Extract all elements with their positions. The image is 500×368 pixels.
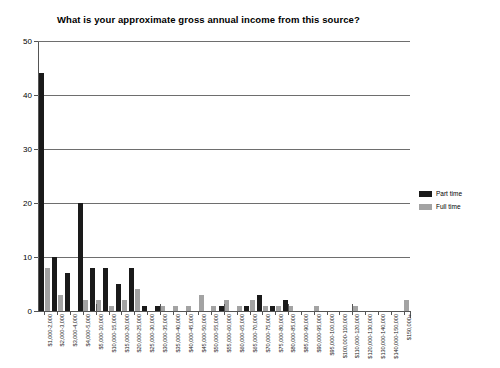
bar-part-time <box>52 257 57 311</box>
bar-group <box>219 41 230 311</box>
legend-swatch-full-time <box>419 204 432 210</box>
bar-group <box>78 41 89 311</box>
x-tick-label: $35,000-40,000 <box>175 314 181 353</box>
x-tick-label: $55,000-60,000 <box>226 314 232 353</box>
y-tick-mark <box>34 311 38 312</box>
bar-full-time <box>314 306 319 311</box>
chart-title: What is your approximate gross annual in… <box>57 14 360 25</box>
x-tick-label: $30,000-35,000 <box>162 314 168 353</box>
y-tick-mark <box>34 203 38 204</box>
legend-swatch-part-time <box>419 191 432 197</box>
bar-group <box>244 41 255 311</box>
chart-container: What is your approximate gross annual in… <box>0 0 500 368</box>
bar-group <box>52 41 63 311</box>
x-tick-mark <box>96 311 97 315</box>
bar-full-time <box>404 300 409 311</box>
bar-full-time <box>353 306 358 311</box>
bar-group <box>283 41 294 311</box>
bar-group <box>257 41 268 311</box>
x-tick-label: $90,000-95,000 <box>316 314 322 353</box>
bar-full-time <box>237 306 242 311</box>
x-tick-mark <box>109 311 110 315</box>
x-tick-mark <box>262 311 263 315</box>
y-tick-label: 10 <box>23 253 32 262</box>
x-tick-label: $3,000-4,000 <box>72 314 78 346</box>
bar-group <box>155 41 166 311</box>
bar-group <box>167 41 178 311</box>
x-tick-label: $4,000-5,000 <box>85 314 91 346</box>
legend-label-full-time: Full time <box>436 203 461 210</box>
bar-group <box>193 41 204 311</box>
x-tick-label: $140,000-150,000 <box>393 314 399 359</box>
x-tick-label: $25,000-30,000 <box>149 314 155 353</box>
bar-group <box>321 41 332 311</box>
x-tick-mark <box>173 311 174 315</box>
legend-item-part-time: Part time <box>419 190 462 197</box>
x-tick-mark <box>186 311 187 315</box>
x-tick-label: $75,000-80,000 <box>278 314 284 353</box>
bar-group <box>398 41 409 311</box>
chart-legend: Part time Full time <box>419 190 462 216</box>
x-tick-label: $1,000-2,000 <box>47 314 53 346</box>
x-tick-label: $80,000-85,000 <box>290 314 296 353</box>
x-tick-label: $15,000-20,000 <box>124 314 130 353</box>
bar-full-time <box>199 295 204 311</box>
bar-full-time <box>173 306 178 311</box>
bar-group <box>116 41 127 311</box>
bar-part-time <box>78 203 83 311</box>
bar-part-time <box>270 306 275 311</box>
bar-part-time <box>116 284 121 311</box>
x-tick-label: $130,000-140,000 <box>380 314 386 359</box>
y-tick-mark <box>34 95 38 96</box>
bar-part-time <box>129 268 134 311</box>
x-tick-mark <box>224 311 225 315</box>
x-tick-label: $45,000-50,000 <box>201 314 207 353</box>
x-tick-mark <box>147 311 148 315</box>
bar-part-time <box>90 268 95 311</box>
bar-group <box>373 41 384 311</box>
y-tick-mark <box>34 257 38 258</box>
bar-group <box>129 41 140 311</box>
x-major-tick-mark <box>288 304 289 311</box>
bar-full-time <box>211 306 216 311</box>
bar-full-time <box>109 306 114 311</box>
bar-group <box>39 41 50 311</box>
bar-full-time <box>96 300 101 311</box>
bar-group <box>296 41 307 311</box>
bar-full-time <box>263 306 268 311</box>
x-tick-mark <box>391 311 392 315</box>
bar-group <box>180 41 191 311</box>
bar-full-time <box>276 306 281 311</box>
x-tick-mark <box>378 311 379 315</box>
x-tick-mark <box>288 311 289 315</box>
bar-full-time <box>45 268 50 311</box>
bar-group <box>90 41 101 311</box>
bar-group <box>232 41 243 311</box>
bar-group <box>360 41 371 311</box>
x-tick-mark <box>301 311 302 315</box>
bar-part-time <box>283 300 288 311</box>
x-tick-label: $20,000-25,000 <box>136 314 142 353</box>
y-tick-label: 0 <box>28 307 32 316</box>
bar-group <box>142 41 153 311</box>
bar-full-time <box>224 300 229 311</box>
x-tick-label: $5,000-10,000 <box>98 314 104 349</box>
y-tick-mark <box>34 149 38 150</box>
bar-full-time <box>250 300 255 311</box>
x-tick-label: $50,000-55,000 <box>213 314 219 353</box>
x-major-tick-mark <box>160 304 161 311</box>
x-tick-label: $10,000-15,000 <box>111 314 117 353</box>
bar-full-time <box>122 300 127 311</box>
x-tick-mark <box>365 311 366 315</box>
x-tick-mark <box>83 311 84 315</box>
bar-full-time <box>288 306 293 311</box>
bar-group <box>103 41 114 311</box>
x-tick-mark <box>314 311 315 315</box>
x-tick-mark <box>250 311 251 315</box>
bar-full-time <box>58 295 63 311</box>
x-tick-label: $40,000-45,000 <box>188 314 194 353</box>
x-tick-mark <box>275 311 276 315</box>
bar-group <box>308 41 319 311</box>
x-tick-mark <box>44 311 45 315</box>
x-tick-mark <box>198 311 199 315</box>
